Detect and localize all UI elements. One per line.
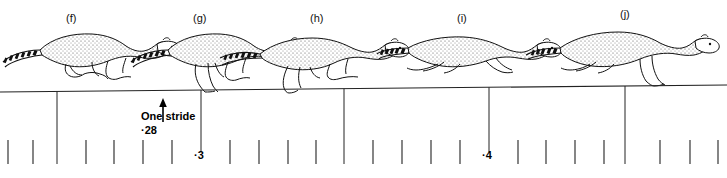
one-stride-value: ·28 [141,124,157,136]
minor-ticks [8,140,718,164]
cheetah-gait-figure: (f) (g) (h) (i) (j) One stride ·28 ·3 ·4 [0,0,727,178]
figure-canvas [0,0,727,178]
panel-label-i: (i) [457,12,467,24]
ground-baseline [0,85,727,92]
axis-tick-label-point3: ·3 [194,149,204,161]
cheetah-figure-j [526,32,719,86]
panel-label-f: (f) [66,12,76,24]
panel-label-g: (g) [193,12,206,24]
panel-label-j: (j) [620,8,630,20]
cheetah-figure-f [3,34,181,79]
one-stride-label: One stride [141,110,195,122]
panel-label-h: (h) [310,12,323,24]
axis-tick-label-point4: ·4 [482,149,492,161]
